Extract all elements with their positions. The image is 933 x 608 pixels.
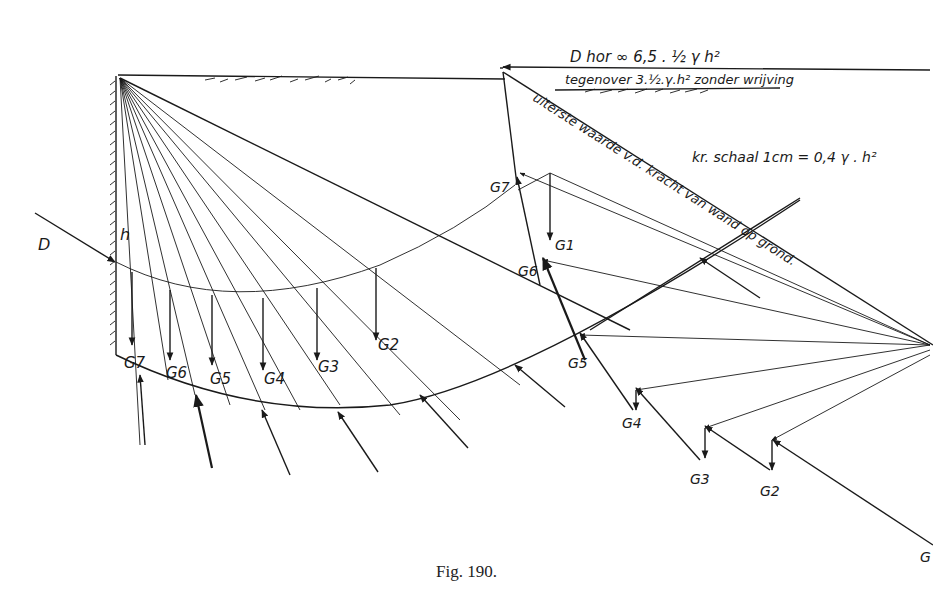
annotation-line-2: tegenover 3.½.γ.h² zonder wrijving [565, 72, 794, 87]
reaction-arrows [140, 258, 760, 475]
label-G5-polygon: G5 [568, 355, 588, 371]
label-D: D [38, 235, 50, 254]
label-G4-polygon: G4 [622, 415, 642, 431]
label-G7-polygon: G7 [490, 179, 510, 195]
label-G3-left: G3 [318, 358, 339, 376]
label-G2-left: G2 [378, 336, 399, 354]
label-h: h [120, 225, 130, 244]
figure-caption: Fig. 190. [0, 562, 933, 582]
annotation-line-1: D hor ∞ 6,5 . ½ γ h² [570, 48, 720, 66]
label-G2-polygon: G2 [760, 483, 780, 499]
force-diagram: D h G7 G6 G5 G4 G3 G2 [0, 0, 933, 608]
slip-line-fan [120, 78, 630, 445]
scale-annotation: kr. schaal 1cm = 0,4 γ . h² [692, 149, 877, 165]
ground-surface [118, 75, 505, 84]
label-G7-left: G7 [124, 354, 146, 372]
label-G6-left: G6 [166, 364, 187, 382]
retaining-wall [110, 76, 116, 355]
label-G6-polygon: G6 [518, 263, 538, 279]
label-G5-left: G5 [210, 370, 231, 388]
label-G4-left: G4 [264, 370, 285, 388]
force-polygon: G7 G1 G6 G5 G4 G3 G2 G [490, 67, 933, 565]
label-G1-polygon: G1 [555, 237, 575, 253]
left-load-arrows: G7 G6 G5 G4 G3 G2 [124, 268, 399, 388]
label-G3-polygon: G3 [690, 471, 710, 487]
